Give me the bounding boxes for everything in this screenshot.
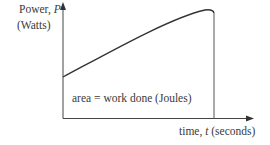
y-axis-symbol: P [54,3,61,15]
y-axis-unit: (Watts) [17,20,51,32]
x-axis-label: time, t (seconds) [179,126,255,138]
power-curve [63,10,214,77]
x-axis-arrowhead [246,116,254,122]
x-axis-label-text: time, [179,125,205,137]
x-axis-unit: (seconds) [208,125,255,137]
area-label: area = work done (Joules) [72,93,192,105]
y-axis-label-text: Power, [19,3,54,15]
y-axis-label: Power, P [19,4,61,16]
